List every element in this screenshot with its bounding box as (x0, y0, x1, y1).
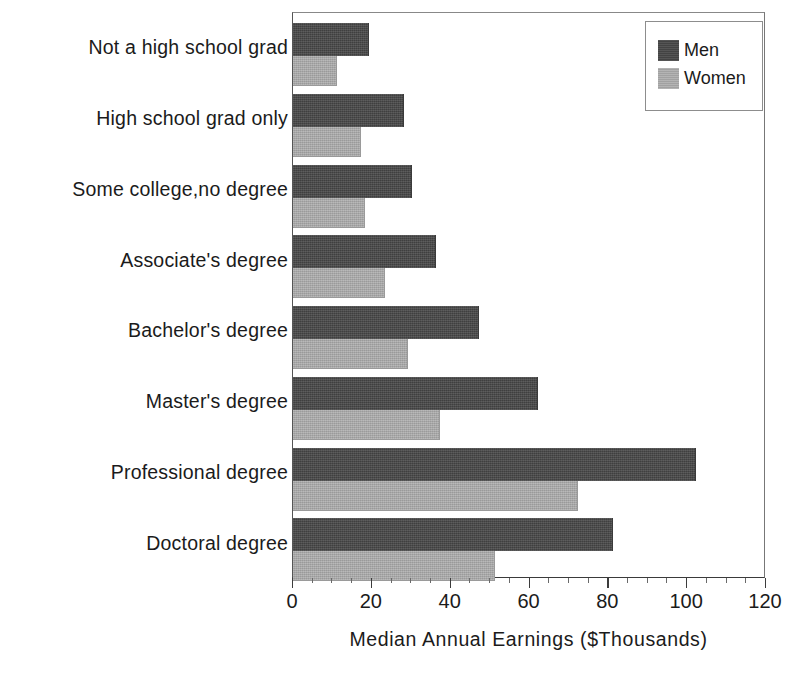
x-tick-minor (469, 578, 470, 583)
x-tick-minor (489, 578, 490, 583)
x-tick-minor (568, 578, 569, 583)
x-tick-minor (351, 578, 352, 583)
bar-women (293, 127, 361, 157)
x-tick-label: 80 (596, 591, 618, 611)
x-tick-label: 20 (360, 591, 382, 611)
x-tick-label: 0 (286, 591, 297, 611)
x-tick-minor (430, 578, 431, 583)
bar-men (293, 94, 404, 127)
bar-men (293, 165, 412, 198)
x-tick-major (529, 578, 530, 588)
bar-women (293, 410, 440, 440)
bar-men (293, 306, 479, 339)
x-tick-major (450, 578, 451, 588)
x-tick-minor (410, 578, 411, 583)
x-tick-minor (706, 578, 707, 583)
x-tick-label: 60 (517, 591, 539, 611)
category-label: Master's degree (0, 392, 288, 412)
bar-women (293, 481, 578, 511)
x-tick-major (686, 578, 687, 588)
x-tick-minor (627, 578, 628, 583)
x-tick-minor (391, 578, 392, 583)
category-label: Doctoral degree (0, 534, 288, 554)
x-tick-label: 100 (669, 591, 702, 611)
x-tick-minor (331, 578, 332, 583)
x-tick-minor (548, 578, 549, 583)
bar-men (293, 448, 696, 481)
x-axis-title: Median Annual Earnings ($Thousands) (292, 628, 765, 651)
bar-men (293, 235, 436, 268)
x-tick-label: 120 (748, 591, 781, 611)
bar-women (293, 268, 385, 298)
bar-men (293, 23, 369, 56)
legend-swatch-men-icon (658, 40, 679, 61)
bar-women (293, 56, 337, 86)
bar-chart: Not a high school gradHigh school grad o… (0, 0, 800, 674)
x-tick-minor (588, 578, 589, 583)
x-tick-minor (726, 578, 727, 583)
x-tick-minor (312, 578, 313, 583)
bar-men (293, 518, 613, 551)
bar-women (293, 339, 408, 369)
legend-label-men: Men (684, 41, 719, 59)
x-tick-minor (745, 578, 746, 583)
x-tick-label: 40 (439, 591, 461, 611)
category-label: Bachelor's degree (0, 321, 288, 341)
bar-women (293, 551, 495, 581)
category-axis-labels: Not a high school gradHigh school grad o… (0, 12, 288, 578)
category-label: Professional degree (0, 463, 288, 483)
bar-women (293, 198, 365, 228)
x-tick-minor (647, 578, 648, 583)
x-axis-tick-labels: 020406080100120 (292, 591, 765, 617)
category-label: High school grad only (0, 109, 288, 129)
x-tick-major (371, 578, 372, 588)
legend-label-women: Women (684, 69, 746, 87)
category-label: Not a high school grad (0, 38, 288, 58)
legend-item-women: Women (658, 66, 746, 90)
x-tick-minor (666, 578, 667, 583)
bar-men (293, 377, 538, 410)
category-label: Associate's degree (0, 251, 288, 271)
x-tick-major (765, 578, 766, 588)
legend-swatch-women-icon (658, 68, 679, 89)
x-tick-minor (509, 578, 510, 583)
category-label: Some college,no degree (0, 180, 288, 200)
legend-item-men: Men (658, 38, 719, 62)
chart-legend: Men Women (645, 21, 763, 111)
x-axis-ticks (292, 578, 765, 590)
x-tick-major (292, 578, 293, 588)
x-tick-major (607, 578, 608, 588)
